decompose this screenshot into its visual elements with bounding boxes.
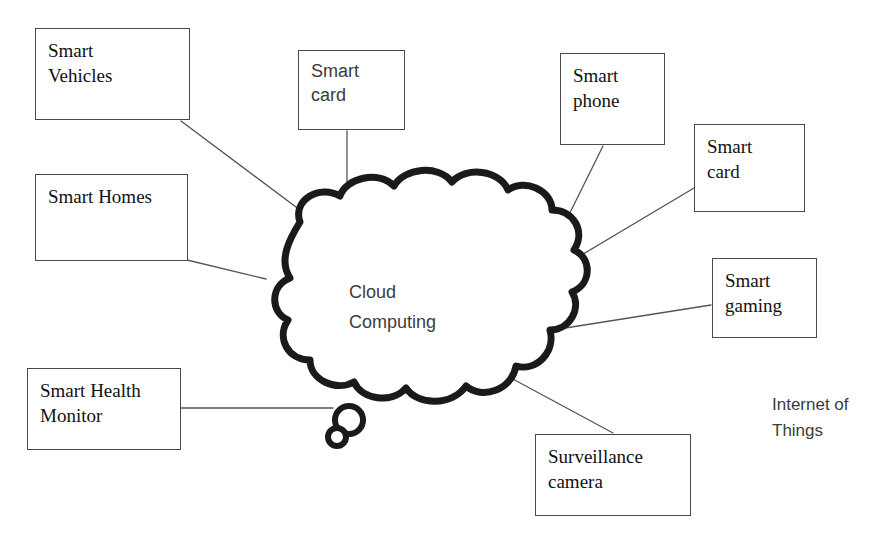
node-box-smart-homes[interactable]: Smart Homes (35, 174, 188, 261)
node-box-smart-gaming[interactable]: Smart gaming (712, 258, 817, 338)
diagram-canvas: Cloud Computing Smart VehiclesSmart card… (0, 0, 896, 537)
node-box-smart-health-monitor[interactable]: Smart Health Monitor (27, 368, 181, 450)
cloud-center-label: Cloud Computing (349, 278, 489, 337)
node-box-smart-card-right[interactable]: Smart card (694, 124, 805, 212)
internet-of-things-caption: Internet of Things (772, 392, 849, 445)
node-box-smart-phone[interactable]: Smart phone (560, 53, 665, 145)
node-box-smart-vehicles[interactable]: Smart Vehicles (35, 28, 190, 120)
node-box-surveillance-camera[interactable]: Surveillance camera (535, 434, 691, 516)
node-box-smart-card-top[interactable]: Smart card (298, 50, 405, 130)
thought-tail-small-icon (328, 428, 346, 446)
